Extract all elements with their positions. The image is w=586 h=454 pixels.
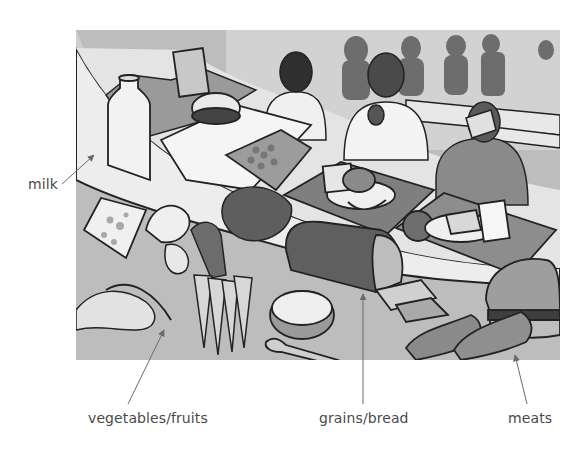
meats-callout-arrow	[515, 355, 527, 404]
milk-carton-icon	[479, 200, 510, 241]
label-grains-bread: grains/bread	[319, 410, 409, 426]
label-meats: meats	[508, 410, 552, 426]
cafeteria-illustration	[76, 30, 560, 360]
label-milk: milk	[28, 176, 58, 192]
label-vegetables-fruits: vegetables/fruits	[88, 410, 208, 426]
